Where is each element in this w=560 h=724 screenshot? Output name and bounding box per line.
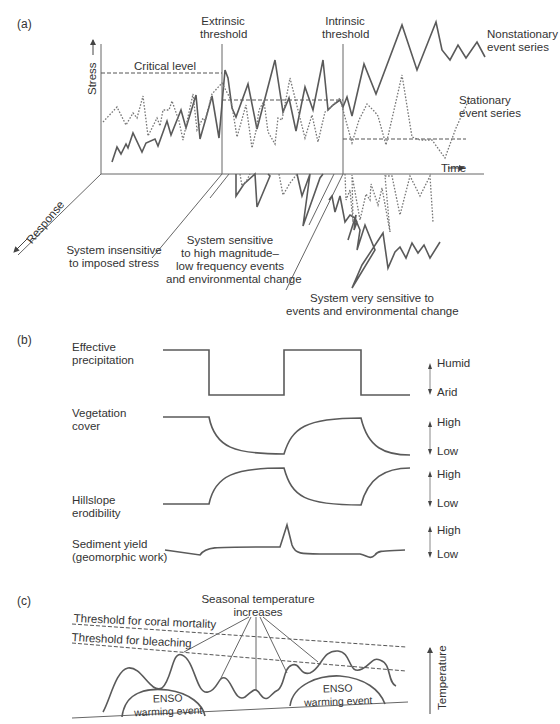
humid-label: Humid	[437, 357, 470, 370]
precipitation-label: Effective precipitation	[72, 341, 134, 367]
zone2-line-2: to high magnitude–	[166, 247, 294, 260]
extrinsic-threshold-label: Extrinsic threshold	[200, 15, 246, 41]
zone2-line-4: and environmental change	[166, 273, 294, 286]
panel-b-curves	[163, 350, 432, 558]
response-arrow-icon	[14, 239, 27, 252]
zone1-line-1: System insensitive	[64, 244, 164, 257]
zone-very-sensitive-label: System very sensitive to events and envi…	[286, 292, 458, 318]
temperature-axis-label: Temperature	[436, 645, 448, 710]
stress-axis-label: Stress	[86, 62, 98, 95]
zone2-line-1: System sensitive	[166, 234, 294, 247]
enso-label-2: ENSO warming event	[296, 681, 381, 710]
sediment-high-label: High	[437, 524, 461, 537]
sediment-line-2: (geomorphic work)	[72, 551, 167, 564]
seasonal-increase-label: Seasonal temperature increases	[198, 593, 318, 619]
extrinsic-line-2: threshold	[200, 28, 246, 41]
seasonal-line-1: Seasonal temperature	[198, 593, 318, 606]
erod-line-1: Hillslope	[72, 494, 121, 507]
intrinsic-line-1: Intrinsic	[322, 15, 368, 28]
enso-label-1: ENSO warming event	[128, 691, 209, 720]
veg-low-label: Low	[437, 445, 458, 458]
veg-line-2: cover	[72, 420, 126, 433]
extrinsic-line-1: Extrinsic	[200, 15, 246, 28]
intrinsic-threshold-label: Intrinsic threshold	[322, 15, 368, 41]
stationary-label: Stationary event series	[459, 94, 521, 120]
precip-line-1: Effective	[72, 341, 134, 354]
erod-line-2: erodibility	[72, 507, 121, 520]
zone1-line-2: to imposed stress	[64, 257, 164, 270]
nonstationary-label: Nonstationary event series	[487, 28, 558, 54]
erod-low-label: Low	[437, 497, 458, 510]
intrinsic-line-2: threshold	[322, 28, 368, 41]
sediment-line-1: Sediment yield	[72, 538, 167, 551]
erodibility-label: Hillslope erodibility	[72, 494, 121, 520]
seasonal-line-2: increases	[198, 606, 318, 619]
veg-high-label: High	[437, 416, 461, 429]
stationary-line-2: event series	[459, 107, 521, 120]
arid-label: Arid	[437, 386, 457, 399]
time-axis-label: Time	[441, 162, 466, 175]
stationary-line-1: Stationary	[459, 94, 521, 107]
precip-line-2: precipitation	[72, 354, 134, 367]
enso1-line-2: warming event	[128, 704, 208, 720]
nonstationary-line-1: Nonstationary	[487, 28, 558, 41]
response-dotted-zone3	[345, 174, 433, 232]
zone-sensitive-label: System sensitive to high magnitude– low …	[166, 234, 294, 286]
sediment-low-label: Low	[437, 548, 458, 561]
response-trace-zone2b	[297, 174, 323, 226]
panel-b-letter: (b)	[17, 333, 32, 347]
response-trace-zone3	[329, 196, 440, 288]
veg-line-1: Vegetation	[72, 407, 126, 420]
panel-a-letter: (a)	[17, 17, 32, 31]
panel-c-letter: (c)	[17, 594, 31, 608]
critical-level-label: Critical level	[134, 60, 196, 73]
zone-insensitive-label: System insensitive to imposed stress	[64, 244, 164, 270]
zone2-line-3: low frequency events	[166, 260, 294, 273]
response-dotted-zone2b	[279, 174, 297, 195]
zone3-line-1: System very sensitive to	[286, 292, 458, 305]
erod-high-label: High	[437, 468, 461, 481]
vegetation-label: Vegetation cover	[72, 407, 126, 433]
sediment-yield-label: Sediment yield (geomorphic work)	[72, 538, 167, 564]
zone3-line-2: events and environmental change	[286, 305, 458, 318]
response-trace-zone2	[236, 174, 270, 207]
nonstationary-line-2: event series	[487, 41, 558, 54]
nonstationary-series	[112, 22, 485, 162]
